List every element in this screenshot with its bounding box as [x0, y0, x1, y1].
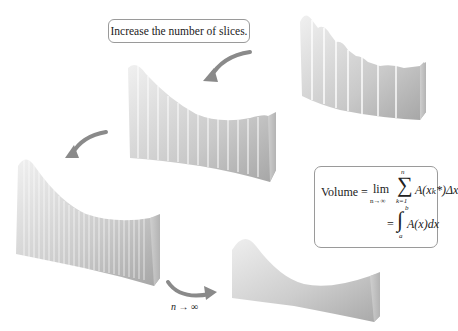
volume-formula-box: Volume = lim n→∞ n ∑ k=1 A(xₖ*)Δx = b ∫ …: [314, 166, 438, 248]
formula-equals: =: [387, 217, 394, 232]
formula-lim-subscript: n→∞: [370, 197, 386, 205]
few-slices-solid: [300, 15, 426, 120]
more-slices-solid: [128, 65, 276, 182]
integral-icon: ∫: [397, 208, 403, 232]
limit-variable: n: [171, 301, 176, 312]
formula-integral-lower: a: [399, 232, 403, 240]
formula-lhs: Volume =: [321, 185, 368, 200]
formula-lim: lim: [373, 182, 389, 197]
infinity-symbol: ∞: [191, 301, 198, 312]
many-slices-solid: [16, 159, 160, 286]
formula-integral-upper: b: [405, 204, 409, 212]
sigma-icon: ∑: [397, 174, 413, 196]
formula-summand: A(xₖ*)Δx: [415, 183, 458, 198]
formula-integrand: A(x)dx: [407, 217, 439, 232]
smooth-solid: [232, 239, 380, 322]
limit-label: n → ∞: [171, 301, 198, 312]
arrow-2-icon: [65, 132, 106, 158]
increase-slices-callout: Increase the number of slices.: [108, 19, 250, 43]
right-arrow-icon: →: [179, 301, 189, 312]
arrow-1-icon: [203, 52, 250, 82]
arrow-3-icon: [168, 282, 217, 300]
